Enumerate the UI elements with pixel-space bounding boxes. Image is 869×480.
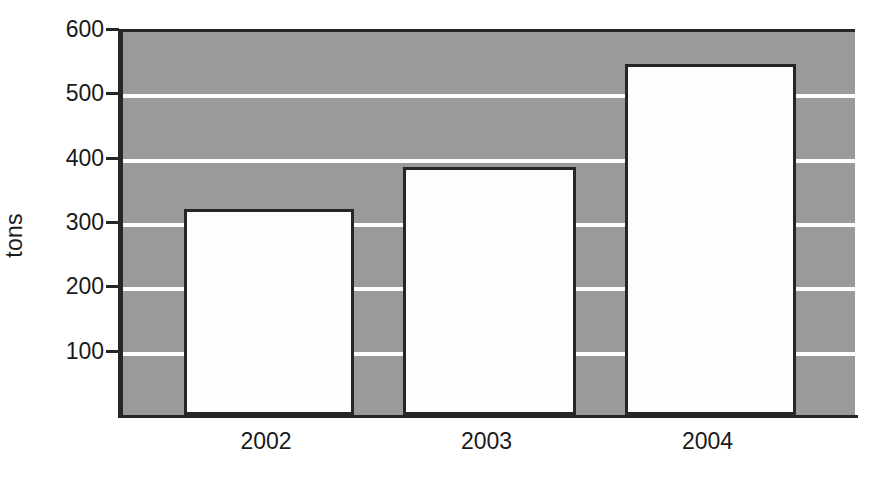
y-axis-tick-label: 200 (42, 273, 104, 300)
y-axis-tick-mark (106, 285, 119, 288)
plot-area (120, 29, 855, 415)
bar-2004 (625, 64, 796, 415)
y-axis-tick-mark (106, 92, 119, 95)
y-axis-tick-mark (106, 157, 119, 160)
y-axis-tick-mark (106, 350, 119, 353)
y-axis-title: tons (1, 191, 28, 281)
y-axis-tick-label: 600 (42, 16, 104, 43)
x-axis-tick-label: 2003 (461, 428, 512, 455)
bar-2002 (184, 209, 354, 415)
y-axis-tick-labels: 100200300400500600 (32, 0, 104, 480)
bar-2003 (403, 167, 576, 415)
x-axis-line (120, 415, 858, 418)
x-axis-tick-labels: 200220032004 (120, 428, 855, 468)
bar-chart: tons 100200300400500600 200220032004 (0, 0, 869, 480)
y-axis-tick-mark (106, 28, 119, 31)
y-axis-tick-label: 300 (42, 209, 104, 236)
y-axis-tick-label: 400 (42, 144, 104, 171)
x-axis-tick-label: 2002 (240, 428, 291, 455)
x-axis-tick-label: 2004 (682, 428, 733, 455)
y-axis-tick-label: 100 (42, 337, 104, 364)
y-axis-tick-label: 500 (42, 80, 104, 107)
y-axis-tick-mark (106, 221, 119, 224)
